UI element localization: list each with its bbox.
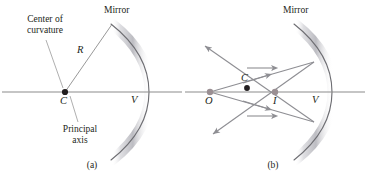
center-of-curvature-leader — [46, 40, 63, 88]
panel-a: Center of curvature Mirror R C V Princip… — [0, 0, 184, 185]
image-label: I — [273, 95, 277, 107]
center-point-label: C — [241, 72, 248, 84]
panel-a-caption: (a) — [72, 160, 112, 170]
vertex-label: V — [131, 94, 137, 106]
panel-b-caption: (b) — [253, 160, 293, 170]
reflected-ray-upper — [213, 62, 314, 134]
mirror-label: Mirror — [104, 5, 129, 16]
principal-axis-leader — [70, 96, 78, 122]
mirror-label: Mirror — [283, 5, 308, 16]
center-of-curvature-dot — [244, 85, 250, 91]
mirror-figure: Center of curvature Mirror R C V Princip… — [0, 0, 367, 185]
radius-label: R — [77, 44, 83, 56]
object-label: O — [205, 95, 213, 107]
vertex-label: V — [312, 94, 318, 106]
reflected-ray-lower — [205, 46, 314, 122]
ray-direction-marker-lower — [243, 101, 269, 109]
panel-b: Mirror O C I V (b) — [183, 0, 367, 185]
panel-b-drawing — [183, 0, 367, 185]
center-point-label: C — [60, 95, 67, 107]
center-of-curvature-label: Center of curvature — [12, 14, 78, 35]
principal-axis-label: Principal axis — [50, 124, 110, 145]
